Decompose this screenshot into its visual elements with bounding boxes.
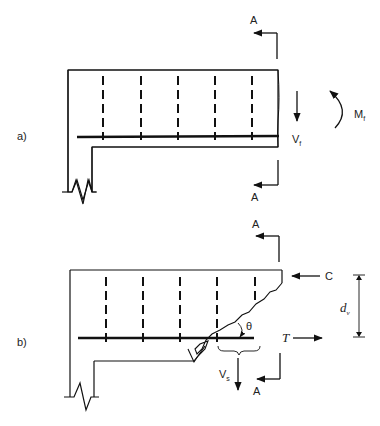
shear-label: Vf bbox=[292, 133, 301, 147]
section-cut-top-b: A bbox=[252, 218, 279, 262]
panel-b: A θ Vs A bbox=[17, 218, 365, 410]
stirrups bbox=[106, 277, 255, 343]
panel-label-b: b) bbox=[17, 336, 27, 348]
panel-a: A Vf Mf A a) bbox=[17, 14, 365, 204]
depth-label: dv bbox=[340, 300, 351, 317]
moment-label: Mf bbox=[354, 108, 365, 122]
tension-label: T bbox=[282, 330, 290, 345]
section-cut-bottom-a: A bbox=[251, 160, 278, 203]
panel-label-a: a) bbox=[17, 130, 27, 142]
break-line-icon bbox=[68, 180, 97, 204]
section-cut-top-a: A bbox=[250, 14, 277, 59]
brace bbox=[218, 346, 260, 355]
angle-label: θ bbox=[246, 320, 252, 332]
svg-text:A: A bbox=[251, 191, 259, 203]
angle-arc bbox=[238, 323, 242, 337]
section-cut-bottom-b: A bbox=[253, 353, 280, 397]
section-label: A bbox=[250, 14, 258, 26]
compression-label: C bbox=[325, 270, 333, 282]
cantilever-shear-diagram: A Vf Mf A a) bbox=[0, 0, 380, 426]
svg-text:A: A bbox=[252, 218, 260, 230]
stirrup-force-label: Vs bbox=[219, 368, 230, 382]
svg-text:A: A bbox=[253, 385, 261, 397]
stirrups bbox=[103, 76, 252, 140]
moment-arrow bbox=[330, 91, 342, 128]
depth-dimension bbox=[353, 275, 365, 337]
